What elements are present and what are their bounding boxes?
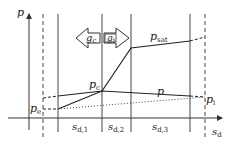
p-i-label: pi [206, 93, 216, 107]
p-sat-label: psat [150, 30, 168, 44]
x-axis-label: sd [212, 126, 222, 139]
p-sat-dashed-ext-left [43, 96, 58, 98]
vapor-pressure-diagram: p sd gc gi psat p pc pe pi sd,1 sd,2 sd,… [0, 0, 232, 148]
p-c-label: pc [89, 78, 100, 92]
segment-label-3: sd,3 [152, 121, 168, 134]
y-axis-label: p [17, 6, 24, 19]
p-label: p [157, 85, 164, 98]
p-e-label: pe [30, 102, 41, 116]
p-dashed-ext-right [190, 96, 205, 97]
segment-label-2: sd,2 [108, 121, 124, 134]
p-sat-dashed-ext-right [190, 37, 205, 41]
p-sat-curve [58, 41, 190, 96]
segment-label-1: sd,1 [72, 121, 88, 134]
